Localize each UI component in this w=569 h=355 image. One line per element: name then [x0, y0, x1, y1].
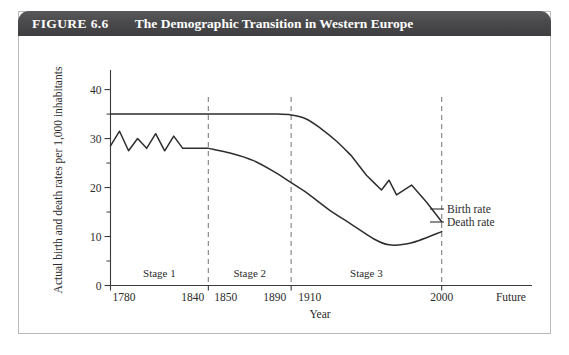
- figure-title-text: The Demographic Transition in Western Eu…: [135, 16, 413, 32]
- figure-root: FIGURE 6.6 The Demographic Transition in…: [0, 0, 569, 355]
- figure-card: [18, 11, 551, 334]
- figure-title-bar: FIGURE 6.6 The Demographic Transition in…: [18, 11, 551, 36]
- figure-number-label: FIGURE 6.6: [32, 16, 109, 32]
